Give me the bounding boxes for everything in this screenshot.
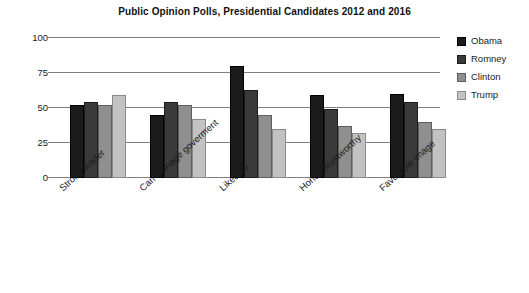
bar-clinton[interactable] <box>258 115 272 178</box>
bar-chart: Public Opinion Polls, Presidential Candi… <box>0 0 529 293</box>
plot-area <box>57 38 440 178</box>
legend-swatch-icon <box>457 73 466 82</box>
y-tick-label: 75 <box>4 68 48 78</box>
legend-item-clinton[interactable]: Clinton <box>457 69 529 85</box>
bar-trump[interactable] <box>432 129 446 178</box>
legend-label: Clinton <box>471 72 501 82</box>
bar-group <box>230 38 286 178</box>
legend-label: Romney <box>471 54 506 64</box>
bar-clinton[interactable] <box>98 105 112 178</box>
chart-legend: ObamaRomneyClintonTrump <box>457 33 529 105</box>
chart-title: Public Opinion Polls, Presidential Candi… <box>0 6 529 17</box>
legend-item-trump[interactable]: Trump <box>457 87 529 103</box>
legend-swatch-icon <box>457 91 466 100</box>
legend-label: Trump <box>471 90 498 100</box>
legend-label: Obama <box>471 36 502 46</box>
y-axis: 0255075100 <box>0 38 48 178</box>
y-tick-label: 50 <box>4 103 48 113</box>
y-tick-label: 0 <box>4 173 48 183</box>
y-tick-label: 25 <box>4 138 48 148</box>
legend-swatch-icon <box>457 55 466 64</box>
y-tick-label: 100 <box>4 33 48 43</box>
bar-trump[interactable] <box>112 95 126 178</box>
legend-item-romney[interactable]: Romney <box>457 51 529 67</box>
legend-swatch-icon <box>457 37 466 46</box>
legend-item-obama[interactable]: Obama <box>457 33 529 49</box>
bar-trump[interactable] <box>272 129 286 178</box>
